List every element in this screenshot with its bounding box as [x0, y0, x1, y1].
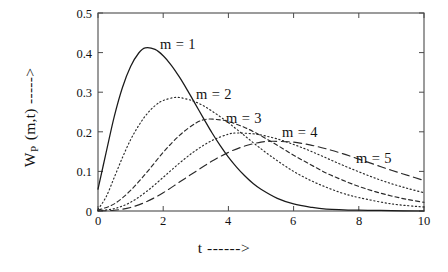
yaxis-title-subscript: P — [28, 144, 40, 152]
yaxis-title-main: W — [21, 152, 38, 167]
data-curves — [98, 48, 424, 211]
yaxis-title: WP (m,t) -----> — [21, 18, 40, 218]
series-label-m1: m = 1 — [160, 36, 196, 53]
xtick-label-5: 10 — [412, 214, 436, 229]
series-label-m2: m = 2 — [196, 86, 232, 103]
ytick-label-4: 0.4 — [58, 47, 92, 62]
curve-m-1 — [98, 48, 424, 211]
series-label-m4: m = 4 — [282, 124, 318, 141]
xtick-label-0: 0 — [88, 214, 108, 229]
xtick-label-4: 8 — [349, 214, 369, 229]
series-label-m5: m = 5 — [356, 150, 392, 167]
ytick-label-2: 0.2 — [58, 126, 92, 141]
yaxis-title-rest: (m,t) -----> — [21, 68, 38, 145]
ytick-label-3: 0.3 — [58, 86, 92, 101]
xtick-label-1: 2 — [153, 214, 173, 229]
xaxis-title: t ------> — [0, 239, 448, 257]
xtick-label-3: 6 — [283, 214, 303, 229]
xtick-label-2: 4 — [218, 214, 238, 229]
chart-figure: 0 0.1 0.2 0.3 0.4 0.5 0 2 4 6 8 10 m = 1… — [0, 0, 448, 272]
series-label-m3: m = 3 — [226, 110, 262, 127]
ytick-label-1: 0.1 — [58, 165, 92, 180]
ytick-label-5: 0.5 — [58, 7, 92, 22]
